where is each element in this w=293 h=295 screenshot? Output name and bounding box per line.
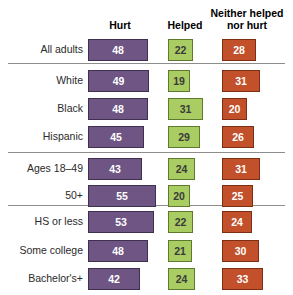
bar-hurt: 45 xyxy=(88,126,144,148)
row-label: Black xyxy=(0,102,83,114)
bar-neither: 25 xyxy=(222,185,253,207)
chart-row: Some college 48 21 30 xyxy=(0,238,293,264)
bar-helped: 24 xyxy=(168,268,195,290)
chart-row: All adults 48 22 28 xyxy=(0,37,293,63)
bar-helped: 20 xyxy=(168,185,190,207)
bar-hurt: 55 xyxy=(88,185,156,207)
bar-neither: 31 xyxy=(222,70,260,92)
row-label: Ages 18–49 xyxy=(0,162,83,174)
bar-neither: 33 xyxy=(222,268,263,290)
column-header-neither-line1: Neither helped xyxy=(211,7,284,19)
row-label: HS or less xyxy=(0,215,83,227)
row-label: Hispanic xyxy=(0,130,83,142)
column-header-hurt: Hurt xyxy=(92,20,148,32)
chart-row: Black 48 31 20 xyxy=(0,96,293,122)
bar-neither: 24 xyxy=(222,211,252,233)
bar-neither: 31 xyxy=(222,158,260,180)
chart-row: HS or less 53 22 24 xyxy=(0,209,293,235)
bar-hurt: 48 xyxy=(88,39,148,61)
bar-hurt: 53 xyxy=(88,211,154,233)
bar-neither: 28 xyxy=(222,39,256,61)
bar-neither: 30 xyxy=(222,240,259,262)
bar-helped: 22 xyxy=(168,211,193,233)
chart-row: Ages 18–49 43 24 31 xyxy=(0,156,293,182)
row-label: All adults xyxy=(0,43,83,55)
row-label: 50+ xyxy=(0,189,83,201)
grouped-horizontal-bar-chart: Hurt Helped Neither helped nor hurt All … xyxy=(0,0,293,295)
group-separator xyxy=(8,152,285,153)
row-label: White xyxy=(0,74,83,86)
bar-hurt: 48 xyxy=(88,240,148,262)
column-header-neither-line2: nor hurt xyxy=(227,19,267,31)
chart-header: Hurt Helped Neither helped nor hurt xyxy=(0,0,293,36)
bar-helped: 29 xyxy=(168,126,200,148)
bar-hurt: 48 xyxy=(88,98,148,120)
bar-hurt: 49 xyxy=(88,70,149,92)
row-label: Some college xyxy=(0,244,83,256)
group-separator xyxy=(8,63,285,64)
bar-neither: 20 xyxy=(222,98,247,120)
bar-helped: 31 xyxy=(168,98,203,120)
chart-row: White 49 19 31 xyxy=(0,68,293,94)
bar-helped: 19 xyxy=(168,70,190,92)
chart-row: Bachelor's+ 42 24 33 xyxy=(0,266,293,292)
chart-row: 50+ 55 20 25 xyxy=(0,183,293,209)
chart-row: Hispanic 45 29 26 xyxy=(0,124,293,150)
bar-hurt: 43 xyxy=(88,158,142,180)
column-header-helped: Helped xyxy=(158,20,212,32)
bar-neither: 26 xyxy=(222,126,254,148)
bar-helped: 24 xyxy=(168,158,195,180)
bar-hurt: 42 xyxy=(88,268,140,290)
bar-helped: 21 xyxy=(168,240,192,262)
bar-helped: 22 xyxy=(168,39,193,61)
row-label: Bachelor's+ xyxy=(0,272,83,284)
column-header-neither: Neither helped nor hurt xyxy=(206,8,288,31)
